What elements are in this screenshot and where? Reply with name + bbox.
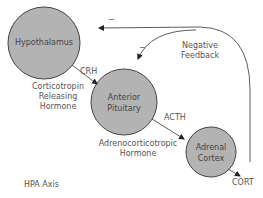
adrenal-cortex-label-line1: Adrenal bbox=[191, 143, 231, 153]
acth-description-line2: Hormone bbox=[98, 149, 178, 159]
adrenal-cortex-label-line2: Cortex bbox=[191, 154, 231, 164]
acth-label: ACTH bbox=[164, 113, 186, 123]
feedback-sign-hypothalamus: − bbox=[108, 15, 115, 25]
crh-description-line2: Releasing bbox=[28, 92, 88, 102]
anterior-pituitary-label-line1: Anterior bbox=[100, 93, 148, 103]
feedback-sign-pituitary: − bbox=[139, 43, 146, 53]
feedback-label-line1: Negative bbox=[176, 41, 224, 51]
crh-description-line1: Corticotropin bbox=[28, 82, 88, 92]
cort-arrow bbox=[228, 169, 240, 176]
feedback-label-line2: Feedback bbox=[176, 51, 224, 61]
acth-description-line1: Adrenocorticotropic bbox=[98, 139, 178, 149]
anterior-pituitary-label-line2: Pituitary bbox=[100, 104, 148, 114]
hypothalamus-label: Hypothalamus bbox=[14, 38, 74, 48]
crh-description-line3: Hormone bbox=[28, 102, 88, 112]
diagram-title: HPA Axis bbox=[24, 180, 59, 190]
cort-label: CORT bbox=[232, 178, 254, 188]
crh-label: CRH bbox=[80, 67, 97, 77]
